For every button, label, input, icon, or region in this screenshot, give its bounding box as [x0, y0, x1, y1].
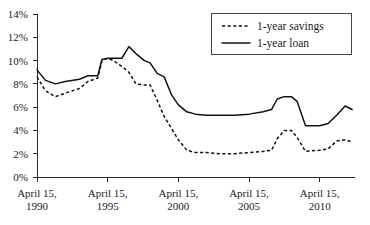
y-axis-tick-marks: [33, 14, 37, 177]
y-tick-label: 10%: [8, 55, 28, 67]
chart-legend: 1-year savings 1-year loan: [211, 13, 351, 54]
y-tick-label: 0%: [13, 171, 28, 183]
y-tick-label: 8%: [13, 78, 28, 90]
x-tick-label: April 15,2010: [300, 187, 340, 212]
y-tick-label: 12%: [8, 31, 28, 43]
x-axis-tick-marks: [37, 177, 320, 182]
legend-label-savings: 1-year savings: [257, 20, 324, 33]
y-tick-label: 4%: [13, 124, 28, 136]
x-tick-label: April 15,2005: [229, 187, 269, 212]
series-line-1-year-savings: [37, 58, 352, 153]
x-tick-label: April 15,1995: [88, 187, 128, 212]
y-tick-label: 2%: [13, 148, 28, 160]
series-line-1-year-loan: [37, 47, 352, 126]
x-axis-tick-labels: April 15,1990April 15,1995April 15,2000A…: [17, 187, 340, 212]
y-tick-label: 14%: [8, 8, 28, 20]
y-tick-label: 6%: [13, 101, 28, 113]
legend-label-loan: 1-year loan: [257, 37, 309, 50]
y-axis-tick-labels: 0%2%4%6%8%10%12%14%: [8, 8, 28, 183]
x-tick-label: April 15,1990: [17, 187, 57, 212]
line-chart: 0%2%4%6%8%10%12%14% April 15,1990April 1…: [0, 0, 370, 225]
chart-canvas: 0%2%4%6%8%10%12%14% April 15,1990April 1…: [0, 0, 370, 225]
x-tick-label: April 15,2000: [158, 187, 198, 212]
